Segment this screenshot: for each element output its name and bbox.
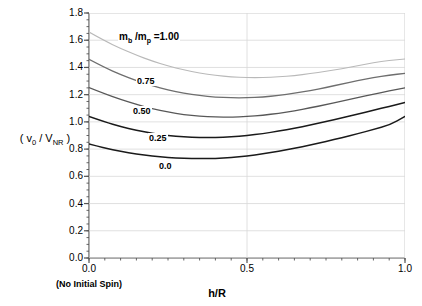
y-axis-title-prefix: ( v [20, 132, 32, 144]
plot-svg [89, 13, 405, 258]
y-axis-title-mid: / V [36, 132, 53, 144]
y-tick-label: 0.4 [53, 199, 83, 209]
y-tick-label: 1.0 [53, 117, 83, 127]
plot-area [89, 13, 405, 258]
x-axis-note: (No Initial Spin) [29, 279, 149, 289]
y-tick-label: 1.8 [53, 8, 83, 18]
curve-label-0-75: 0.75 [136, 76, 156, 86]
legend-equals-value: =1.00 [151, 31, 179, 42]
x-tick-label: 0.5 [227, 264, 267, 274]
y-axis-title-sub-nr: NR [53, 138, 64, 147]
y-tick-label: 1.2 [53, 90, 83, 100]
y-tick-label: 0.0 [53, 253, 83, 263]
y-axis-title-suffix: ) [64, 132, 71, 144]
legend-m: m [119, 31, 128, 42]
y-tick-label: 0.2 [53, 226, 83, 236]
y-axis-tick-labels: 0.00.20.40.60.81.01.21.41.61.8 [53, 0, 83, 306]
y-tick-label: 0.6 [53, 171, 83, 181]
y-axis-title: ( v0 / VNR ) [2, 132, 88, 147]
curve-label-0-25: 0.25 [148, 133, 168, 143]
y-tick-label: 1.6 [53, 35, 83, 45]
x-tick-label: 0.0 [69, 264, 109, 274]
curve-label-0-00: 0.0 [158, 161, 173, 171]
curve-label-1-00: mb /mp =1.00 [118, 31, 180, 44]
chart-figure: 0.00.20.40.60.81.01.21.41.61.8 ( v0 / VN… [0, 0, 422, 306]
legend-slash-m: /m [132, 31, 146, 42]
y-tick-label: 1.4 [53, 62, 83, 72]
x-axis-title: h/R [187, 287, 247, 299]
x-axis-tick-labels: 0.00.51.0 [0, 264, 422, 278]
curve-label-0-50: 0.50 [132, 106, 152, 116]
x-tick-label: 1.0 [385, 264, 422, 274]
